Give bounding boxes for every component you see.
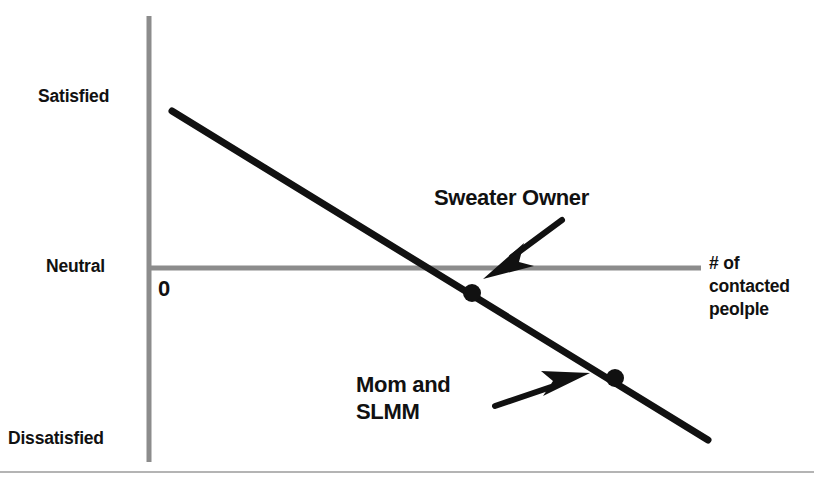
y-tick-label-dissatisfied: Dissatisfied <box>8 428 104 449</box>
origin-label: 0 <box>158 276 170 302</box>
arrow-mom-and-slmm-icon <box>495 371 590 406</box>
y-tick-label-neutral: Neutral <box>46 256 105 277</box>
chart-canvas: Satisfied Neutral Dissatisfied 0 # of co… <box>0 0 814 483</box>
footer-divider <box>0 471 814 473</box>
x-axis-label: # of contacted peolple <box>709 252 809 321</box>
annotation-sweater-owner: Sweater Owner <box>434 184 589 211</box>
data-point-mom-and-slmm[interactable] <box>606 369 624 387</box>
annotation-mom-and-slmm: Mom and SLMM <box>356 371 450 425</box>
data-point-sweater-owner[interactable] <box>463 284 481 302</box>
y-tick-label-satisfied: Satisfied <box>38 86 109 107</box>
